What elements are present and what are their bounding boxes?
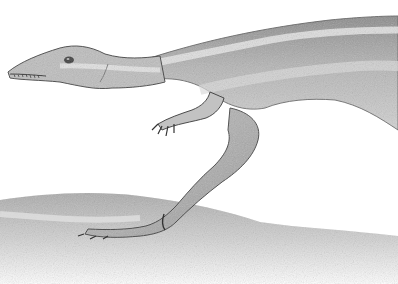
front-arm bbox=[152, 92, 224, 136]
illustration-svg bbox=[0, 0, 398, 284]
ground bbox=[0, 193, 398, 284]
head-and-neck bbox=[8, 46, 165, 89]
dinosaur-illustration bbox=[0, 0, 398, 284]
